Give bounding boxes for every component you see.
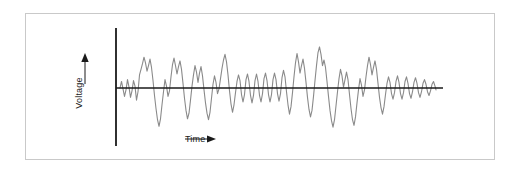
voltage-waveform-line — [120, 47, 436, 127]
time-axis-label-group: Time — [185, 132, 217, 146]
voltage-axis-label: Voltage — [74, 65, 84, 121]
figure-container: Voltage Time — [0, 0, 517, 172]
voltage-axis-label-group: Voltage — [70, 52, 100, 134]
time-axis-label: Time — [185, 134, 205, 144]
